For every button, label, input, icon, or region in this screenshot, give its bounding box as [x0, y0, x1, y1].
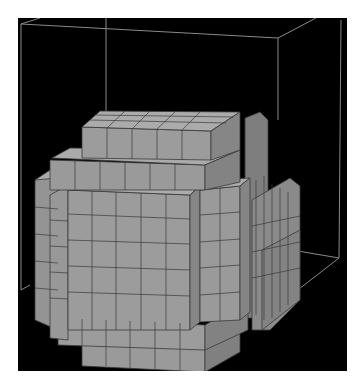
voxel-right-sides: [245, 112, 300, 330]
voxel-scene: [18, 18, 347, 371]
render-viewport[interactable]: [18, 18, 347, 371]
